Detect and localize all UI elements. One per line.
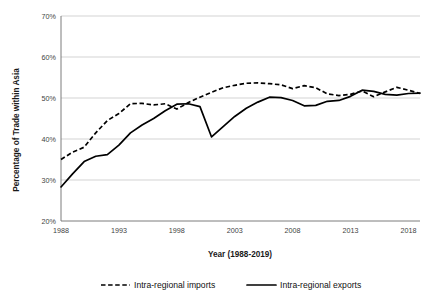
y-tick-label-40%: 40% [42,135,57,144]
y-tick-label-30%: 30% [42,176,57,185]
line-chart: 70%60%50%40%30%20% 198819931998200320082… [0,0,426,301]
legend-label-intra-regional-exports: Intra-regional exports [280,280,361,290]
x-axis-title: Year (1988-2019) [208,250,272,259]
series-line-intra-regional-exports [61,90,420,187]
x-tick-label-1988: 1988 [53,226,69,235]
y-tick-label-20%: 20% [42,217,57,226]
x-tick-label-2018: 2018 [400,226,416,235]
x-tick-label-2003: 2003 [227,226,243,235]
legend: Intra-regional imports Intra-regional ex… [101,280,361,290]
chart-container: 70%60%50%40%30%20% 198819931998200320082… [0,0,426,301]
y-axis-tick-labels: 70%60%50%40%30%20% [42,12,57,226]
gridlines [61,16,420,180]
y-tick-label-50%: 50% [42,94,57,103]
y-tick-label-70%: 70% [42,12,57,21]
x-tick-label-1998: 1998 [169,226,185,235]
x-tick-label-2008: 2008 [285,226,301,235]
legend-label-intra-regional-imports: Intra-regional imports [134,280,215,290]
y-tick-label-60%: 60% [42,53,57,62]
y-axis-title: Percentage of Trade within Asia [12,68,21,192]
x-axis-tick-labels: 1988199319982003200820132018 [53,226,416,235]
x-tick-label-2013: 2013 [343,226,359,235]
x-tick-label-1993: 1993 [111,226,127,235]
